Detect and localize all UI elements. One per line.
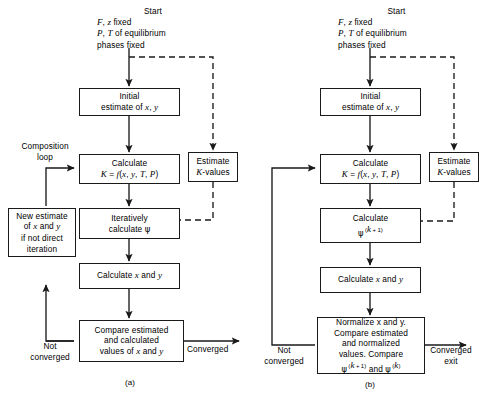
panel-a-box-initial-estimate: Initial estimate of x, y	[79, 88, 180, 116]
panel-b-converged-line1: Converged	[427, 345, 475, 356]
panel-a-start-line3: P, T of equilibrium	[97, 28, 207, 40]
panel-b-box-normalize-compare: Normalize x and y. Compare estimated and…	[317, 317, 425, 374]
panel-a-new-estimate-line4: iteration	[16, 244, 67, 255]
panel-a-box-iteratively-calculate: Iteratively calculate ψ	[79, 208, 180, 239]
panel-b-start-label: Start F, z fixed P, T of equilibrium pha…	[338, 6, 453, 51]
panel-a-box-new-estimate: New estimate of x and y if not direct it…	[8, 208, 76, 257]
panel-a-label-converged: Converged	[187, 344, 229, 355]
panel-b-box-calculate-psi: Calculate ψ (k + 1)	[320, 208, 421, 243]
panel-a-iteratively-line1: Iteratively	[109, 213, 151, 224]
panel-b-calculate-k-line1: Calculate	[342, 158, 400, 169]
panel-b-estimate-k-line1: Estimate	[437, 156, 471, 167]
panel-a-caption: (a)	[105, 378, 155, 387]
panel-b-not-converged-line2: converged	[255, 356, 313, 367]
panel-a-box-estimate-k-values: Estimate K-values	[188, 152, 238, 182]
panel-b-normalize-line3: and normalized	[334, 338, 408, 349]
panel-a-calculate-k-line2: K = f(x, y, T, P)	[101, 169, 159, 181]
panel-a-estimate-k-line1: Estimate	[196, 156, 230, 167]
panel-a-compare-line2: and calculated	[94, 335, 168, 346]
panel-a-calculate-xy-text: Calculate x and y	[97, 270, 162, 282]
panel-b-normalize-line5: ψ (k + 1) and ψ (k)	[334, 360, 408, 374]
panel-a-initial-estimate-line1: Initial	[101, 91, 158, 102]
panel-b-box-initial-estimate: Initial estimate of x, y	[320, 88, 421, 116]
panel-b-caption: (b)	[345, 380, 395, 389]
panel-a-composition-loop-line1: Composition	[14, 141, 76, 152]
panel-b-not-converged-line1: Not	[255, 345, 313, 356]
panel-b-estimate-k-line2: K-values	[437, 167, 471, 179]
panel-a-compare-line3: values of x and y	[94, 346, 168, 358]
panel-b-start-line1: Start	[338, 6, 453, 17]
panel-a-new-estimate-line3: if not direct	[16, 233, 67, 244]
panel-b-normalize-line2: Compare estimated	[334, 328, 408, 339]
panel-b-start-line3: P, T of equilibrium	[338, 28, 453, 40]
panel-b-calculate-psi-line2: ψ (k + 1)	[353, 224, 389, 238]
panel-a-not-converged-line2: converged	[22, 352, 78, 363]
panel-b-calculate-k-line2: K = f(x, y, T, P)	[342, 169, 400, 181]
panel-b-box-calculate-xy: Calculate x and y	[320, 267, 421, 293]
figure-canvas: Start F, z fixed P, T of equilibrium pha…	[0, 0, 481, 399]
panel-b-box-estimate-k-values: Estimate K-values	[429, 152, 479, 182]
panel-b-start-line2: F, z fixed	[338, 17, 453, 29]
panel-b-label-converged-exit: Converged exit	[427, 345, 475, 367]
panel-a-compare-line1: Compare estimated	[94, 325, 168, 336]
panel-a-estimate-k-line2: K-values	[196, 167, 230, 179]
panel-b-calculate-psi-line1: Calculate	[353, 213, 389, 224]
panel-a-label-composition-loop: Composition loop	[14, 141, 76, 163]
panel-a-box-calculate-k: Calculate K = f(x, y, T, P)	[79, 154, 180, 184]
panel-a-start-label: Start F, z fixed P, T of equilibrium pha…	[97, 6, 207, 51]
panel-a-new-estimate-line1: New estimate	[16, 211, 67, 222]
panel-a-start-line4: phases fixed	[97, 40, 207, 51]
panel-b-label-not-converged: Not converged	[255, 345, 313, 367]
panel-b-normalize-line1: Normalize x and y.	[334, 317, 408, 328]
panel-a-iteratively-line2: calculate ψ	[109, 224, 151, 235]
panel-a-not-converged-line1: Not	[22, 341, 78, 352]
panel-a-initial-estimate-line2: estimate of x, y	[101, 102, 158, 114]
panel-b-normalize-line4: values. Compare	[334, 349, 408, 360]
panel-b-initial-estimate-line1: Initial	[342, 91, 399, 102]
panel-b-initial-estimate-line2: estimate of x, y	[342, 102, 399, 114]
panel-a-box-compare: Compare estimated and calculated values …	[79, 320, 184, 362]
panel-b-box-calculate-k: Calculate K = f(x, y, T, P)	[320, 154, 421, 184]
panel-a-calculate-k-line1: Calculate	[101, 158, 159, 169]
panel-a-composition-loop-line2: loop	[14, 152, 76, 163]
panel-a-box-calculate-xy: Calculate x and y	[79, 263, 180, 289]
panel-b-converged-line2: exit	[427, 356, 475, 367]
panel-b-calculate-xy-text: Calculate x and y	[338, 274, 403, 286]
panel-a-label-not-converged: Not converged	[22, 341, 78, 363]
panel-a-start-line1: Start	[97, 6, 207, 17]
panel-a-new-estimate-line2: of x and y	[16, 221, 67, 233]
panel-b-start-line4: phases fixed	[338, 40, 453, 51]
panel-a-start-line2: F, z fixed	[97, 17, 207, 29]
